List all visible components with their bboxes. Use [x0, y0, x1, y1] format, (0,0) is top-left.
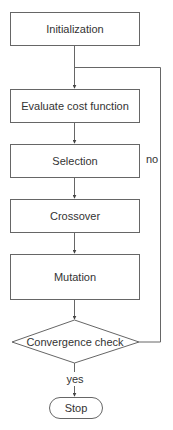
edge-label-no: no: [146, 153, 158, 165]
node-mutation: Mutation: [11, 255, 140, 300]
node-label: Selection: [52, 155, 97, 167]
node-initialization: Initialization: [11, 13, 140, 46]
node-label: Mutation: [54, 271, 96, 283]
node-label: Initialization: [46, 23, 103, 35]
node-label: Evaluate cost function: [21, 100, 129, 112]
node-selection: Selection: [11, 145, 140, 178]
node-crossover: Crossover: [11, 200, 140, 233]
node-evaluate-cost-function: Evaluate cost function: [11, 90, 140, 123]
node-label: Convergence check: [26, 336, 124, 348]
node-stop: Stop: [50, 398, 103, 419]
node-convergence-check: Convergence check: [12, 320, 139, 363]
edge-label-yes: yes: [66, 373, 84, 385]
flowchart: Initialization Evaluate cost function Se…: [0, 0, 173, 430]
node-label: Crossover: [50, 210, 100, 222]
node-label: Stop: [65, 402, 88, 414]
